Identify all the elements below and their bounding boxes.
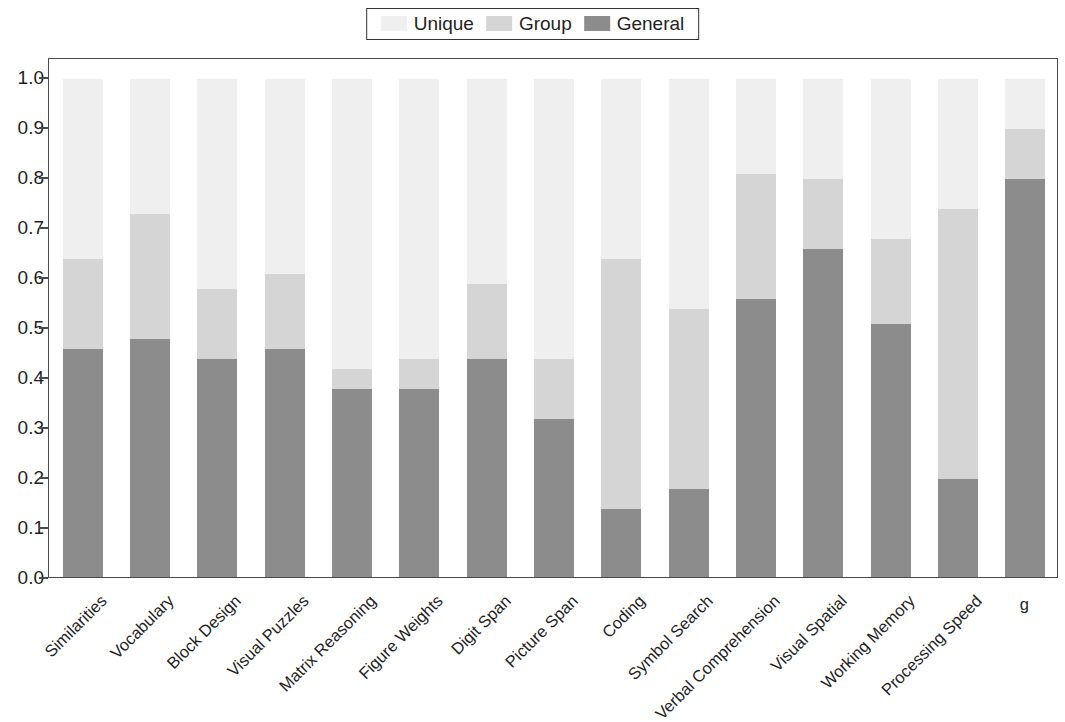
bar-segment-unique [938,79,978,209]
bar-segment-general [938,479,978,577]
x-axis-tick-label: Digit Span [275,592,513,722]
bar-segment-general [736,299,776,577]
legend-item-general: General [584,14,685,33]
bar-segment-unique [63,79,103,259]
bar-segment-unique [803,79,843,179]
y-axis-tick-mark [39,127,48,129]
bar-segment-unique [534,79,574,359]
bar-segment-general [332,389,372,577]
x-axis-tick-label: Block Design [6,592,244,722]
y-axis-tick-label: 0.5 [0,318,44,337]
y-axis-tick-mark [39,577,48,579]
x-axis-tick-label: Symbol Search [477,592,715,722]
plot-area [48,58,1058,578]
bar-column[interactable] [130,59,170,577]
bar-column[interactable] [1005,59,1045,577]
bar-column[interactable] [803,59,843,577]
bar-segment-group [601,259,641,509]
legend-item-group: Group [486,14,572,33]
y-axis-tick-label: 0.6 [0,268,44,287]
bar-segment-unique [871,79,911,239]
x-axis-tick-label: Visual Puzzles [73,592,311,722]
x-axis-tick-label: Similarities [0,592,109,722]
x-axis-tick-label: Vocabulary [0,592,177,722]
bar-segment-unique [130,79,170,214]
bar-segment-group [130,214,170,339]
bar-segment-general [669,489,709,577]
y-axis-tick-label: 0.2 [0,468,44,487]
bar-segment-group [736,174,776,299]
y-axis-tick-label: 0.4 [0,368,44,387]
x-axis-tick-label: Matrix Reasoning [141,592,379,722]
bar-segment-unique [197,79,237,289]
y-axis-tick-mark [39,327,48,329]
y-axis-tick-mark [39,227,48,229]
bar-column[interactable] [197,59,237,577]
x-axis-tick-label: Figure Weights [208,592,446,722]
bar-column[interactable] [265,59,305,577]
y-axis-tick-label: 0.0 [0,568,44,587]
bar-segment-general [265,349,305,577]
bar-column[interactable] [938,59,978,577]
x-axis-tick-label: Processing Speed [747,592,985,722]
y-axis-tick-label: 0.3 [0,418,44,437]
bar-segment-unique [399,79,439,359]
legend-label: General [617,14,685,33]
bar-column[interactable] [736,59,776,577]
legend-label: Group [519,14,572,33]
y-axis-tick-mark [39,177,48,179]
bar-column[interactable] [399,59,439,577]
bar-segment-unique [736,79,776,174]
bar-segment-group [265,274,305,349]
y-axis-tick-label: 0.9 [0,118,44,137]
bar-column[interactable] [63,59,103,577]
bar-segment-general [1005,179,1045,577]
plot-inner [49,59,1057,577]
bar-segment-general [803,249,843,577]
bar-column[interactable] [871,59,911,577]
y-axis-tick-mark [39,277,48,279]
x-axis-tick-label: Picture Span [343,592,581,722]
bar-segment-unique [1005,79,1045,129]
legend-swatch-icon [381,16,407,31]
bar-column[interactable] [534,59,574,577]
bar-column[interactable] [669,59,709,577]
bar-segment-group [534,359,574,419]
bar-segment-group [197,289,237,359]
bar-segment-group [669,309,709,489]
legend-label: Unique [414,14,474,33]
bar-segment-unique [265,79,305,274]
bar-column[interactable] [467,59,507,577]
bar-segment-group [1005,129,1045,179]
x-axis-tick-label: Visual Spatial [612,592,850,722]
bar-segment-general [467,359,507,577]
y-axis-tick-label: 0.1 [0,518,44,537]
bar-column[interactable] [332,59,372,577]
x-axis-tick-label: Coding [410,592,648,722]
bar-segment-group [803,179,843,249]
x-axis-tick-label: Verbal Comprehension [545,592,783,722]
bar-segment-group [63,259,103,349]
bar-segment-general [63,349,103,577]
bar-segment-unique [467,79,507,284]
bar-segment-group [467,284,507,359]
y-axis-tick-mark [39,427,48,429]
bar-segment-unique [332,79,372,369]
bar-segment-general [130,339,170,577]
x-axis-tick-label: Working Memory [679,592,917,722]
bar-segment-general [534,419,574,577]
bar-segment-unique [669,79,709,309]
y-axis-tick-mark [39,77,48,79]
bar-segment-group [332,369,372,389]
bar-segment-general [399,389,439,577]
bar-column[interactable] [601,59,641,577]
bar-segment-group [938,209,978,479]
bar-segment-unique [601,79,641,259]
y-axis-tick-label: 1.0 [0,68,44,87]
chart-legend: UniqueGroupGeneral [366,8,700,40]
legend-swatch-icon [486,16,512,31]
y-axis-tick-mark [39,377,48,379]
y-axis-tick-label: 0.8 [0,168,44,187]
x-axis-tick-label: g [994,596,1054,613]
bar-segment-group [871,239,911,324]
